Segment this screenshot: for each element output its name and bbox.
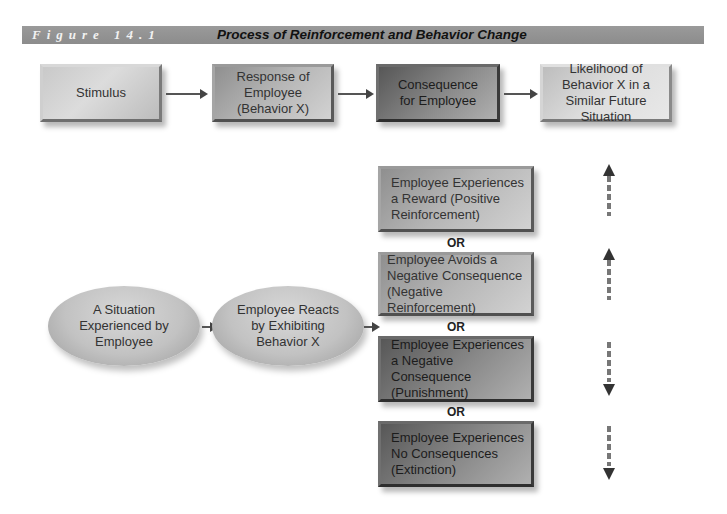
box-response: Response of Employee (Behavior X)	[212, 64, 334, 122]
box-label: Employee Experiences a Negative Conseque…	[391, 337, 531, 401]
arrow-right-icon	[338, 93, 372, 95]
figure-title: Process of Reinforcement and Behavior Ch…	[217, 27, 527, 42]
arrow-right-icon	[504, 93, 536, 95]
box-label: Consequence for Employee	[393, 77, 483, 109]
figure-label: Figure 14.1	[32, 27, 161, 43]
box-positive-reinforcement: Employee Experiences a Reward (Positive …	[378, 166, 534, 232]
ellipse-situation: A Situation Experienced by Employee	[48, 286, 200, 366]
box-label: Stimulus	[76, 85, 126, 101]
box-extinction: Employee Experiences No Consequences (Ex…	[378, 421, 534, 487]
box-punishment: Employee Experiences a Negative Conseque…	[378, 336, 534, 402]
box-stimulus: Stimulus	[40, 64, 162, 122]
arrow-down-icon	[606, 426, 612, 482]
arrow-up-icon	[606, 164, 612, 220]
arrow-down-icon	[606, 342, 612, 398]
ellipse-reaction: Employee Reacts by Exhibiting Behavior X	[212, 286, 364, 366]
ellipse-label: Employee Reacts by Exhibiting Behavior X	[233, 302, 343, 350]
box-likelihood: Likelihood of Behavior X in a Similar Fu…	[540, 64, 672, 122]
box-label: Employee Experiences No Consequences (Ex…	[391, 430, 531, 478]
or-separator: OR	[406, 320, 506, 334]
arrow-up-icon	[606, 248, 612, 304]
figure-header: Figure 14.1 Process of Reinforcement and…	[22, 26, 704, 44]
or-separator: OR	[406, 405, 506, 419]
arrow-right-icon	[364, 326, 378, 328]
ellipse-label: A Situation Experienced by Employee	[79, 302, 169, 350]
box-label: Employee Experiences a Reward (Positive …	[391, 175, 531, 223]
box-label: Response of Employee (Behavior X)	[229, 69, 317, 117]
arrow-right-icon	[166, 93, 206, 95]
or-separator: OR	[406, 236, 506, 250]
box-label: Likelihood of Behavior X in a Similar Fu…	[549, 61, 663, 125]
box-consequence: Consequence for Employee	[376, 64, 500, 122]
box-negative-reinforcement: Employee Avoids a Negative Consequence (…	[378, 252, 534, 316]
box-label: Employee Avoids a Negative Consequence (…	[387, 252, 531, 316]
